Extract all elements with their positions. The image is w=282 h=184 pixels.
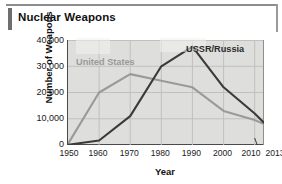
- x-tick-label: 1970: [120, 148, 139, 158]
- series-label-ussr-russia: USSR/Russia: [186, 44, 244, 54]
- title-accent-bar: [8, 8, 12, 30]
- x-tick-label: 2013: [265, 148, 282, 158]
- y-tick-label: 20,000: [18, 87, 64, 97]
- chart-title: Nuclear Weapons: [18, 11, 116, 23]
- x-tick-label: 1950: [59, 148, 78, 158]
- x-axis-tick-labels: 1950 1960 1970 1980 1990 2000 2010 2013: [67, 148, 282, 162]
- series-label-united-states: United States: [76, 57, 135, 67]
- frame-right-divider: [276, 4, 278, 32]
- y-tick-label: 30,000: [18, 61, 64, 71]
- y-tick-label: 0: [18, 139, 64, 149]
- chart-figure: Nuclear Weapons Number of Weapons 40,000…: [0, 0, 282, 184]
- plot-area: [67, 40, 263, 145]
- x-tick-label: 1990: [182, 148, 201, 158]
- x-tick-label: 1960: [89, 148, 108, 158]
- y-tick-label: 40,000: [18, 35, 64, 45]
- y-tick-label: 10,000: [18, 113, 64, 123]
- x-axis-title: Year: [67, 166, 263, 177]
- plot-canvas: [68, 40, 264, 145]
- y-axis-tick-labels: 40,000 30,000 20,000 10,000 0: [14, 40, 64, 145]
- x-tick-label: 1980: [151, 148, 170, 158]
- series-line-united-states: [68, 74, 264, 144]
- x-tick-label: 2000: [213, 148, 232, 158]
- x-tick-label: 2010: [241, 148, 260, 158]
